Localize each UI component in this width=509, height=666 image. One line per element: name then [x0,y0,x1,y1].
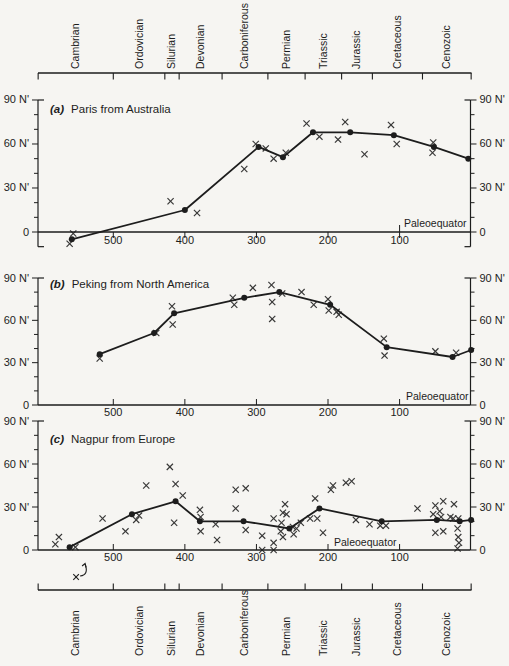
y-tick-label-left: 90 N' [4,93,29,105]
y-tick-label-left: 60 N' [4,458,29,470]
cross-marker [312,495,318,501]
panel-c-letter: (c) [50,433,64,445]
y-tick-label-right: 90 N' [480,93,505,105]
cross-marker [259,533,265,539]
cross-marker [298,289,304,295]
line-point [151,330,157,336]
cross-marker [429,150,435,156]
line-point [450,354,456,360]
cross-marker [325,296,331,302]
cross-marker [454,545,460,551]
cross-marker [231,302,237,308]
cross-marker [437,508,443,514]
panel-c-title-text: Nagpur from Europe [71,433,175,445]
figure: CambrianOrdovicianSilurianDevonianCarbon… [0,0,509,666]
y-tick-label-left: 0 [23,544,29,556]
paleoequator-label-b: Paleoequator [406,390,468,402]
paleoequator-label-a: Paleoequator [404,217,466,229]
x-tick-label: 200 [319,551,337,563]
cross-marker [430,511,436,517]
cross-marker [381,336,387,342]
y-tick-label-right: 60 N' [480,314,505,326]
cross-marker [303,120,309,126]
cross-marker [250,285,256,291]
line-point [286,526,292,532]
line-point [241,295,247,301]
x-tick-label: 300 [247,551,265,563]
x-tick-label: 400 [176,234,194,246]
line-point [129,511,135,517]
panel-b-letter: (b) [50,278,65,290]
scatter-crosses [67,119,437,247]
y-tick-label-right: 30 N' [480,356,505,368]
cross-marker [198,528,204,534]
y-tick-label-left: 60 N' [4,314,29,326]
period-label: Cambrian [69,23,81,69]
cross-marker [99,515,105,521]
cross-marker [451,501,457,507]
y-tick-label-right: 0 [480,226,486,238]
cross-marker [278,528,284,534]
cross-marker [243,485,249,491]
y-tick-label-right: 0 [480,399,486,411]
cross-marker [167,198,173,204]
line-point [171,310,177,316]
cross-marker [383,523,389,529]
period-label: Jurassic [350,617,362,656]
y-tick-label-left: 30 N' [4,356,29,368]
y-tick-label-right: 60 N' [480,458,505,470]
cross-marker [316,134,322,140]
cross-marker [243,527,249,533]
cross-marker [353,517,359,523]
cross-marker [271,540,277,546]
cross-marker [311,302,317,308]
cross-marker [314,515,320,521]
bottom-period-axis: CambrianOrdovicianSilurianDevonianCarbon… [0,582,509,666]
cross-marker [432,502,438,508]
cross-marker [194,210,200,216]
period-label: Cretaceous [391,15,403,69]
cross-marker [282,501,288,507]
panel-c-title: (c)Nagpur from Europe [50,433,175,445]
cross-marker [241,166,247,172]
y-tick-label-right: 90 N' [480,415,505,427]
cross-marker [343,480,349,486]
y-tick-label-right: 30 N' [480,181,505,193]
cross-marker [456,540,462,546]
y-tick-label-left: 0 [23,399,29,411]
line-point [256,144,262,150]
paleoequator-label-c: Paleoequator [334,536,396,548]
y-tick-label-left: 60 N' [4,137,29,149]
line-point [327,302,333,308]
line-point [310,129,316,135]
line-point [182,207,188,213]
mean-path-line [100,292,472,357]
cross-marker [70,230,76,236]
period-label: Cenozoic [440,612,452,656]
x-tick-label: 200 [319,234,337,246]
cross-marker [52,541,58,547]
top-period-axis: CambrianOrdovicianSilurianDevonianCarbon… [0,0,509,86]
panel-b-title: (b)Peking from North America [50,278,209,290]
line-point [241,518,247,524]
cross-marker [170,321,176,327]
y-tick-label-right: 60 N' [480,137,505,149]
cross-marker [414,505,420,511]
x-tick-label: 500 [104,234,122,246]
cross-marker [143,482,149,488]
cross-marker [361,151,367,157]
x-tick-label: 300 [247,234,265,246]
line-point [431,144,437,150]
line-point [67,544,73,550]
line-point [280,154,286,160]
line-point [173,498,179,504]
period-label: Cambrian [69,610,81,656]
panel-a-title-text: Paris from Australia [71,103,171,115]
cross-marker [381,353,387,359]
offscale-arrow-marker [73,564,86,580]
line-point [457,518,463,524]
y-tick-label-left: 0 [23,226,29,238]
period-label: Ordovician [133,606,145,656]
line-point [69,236,75,242]
period-label: Ordovician [133,19,145,69]
